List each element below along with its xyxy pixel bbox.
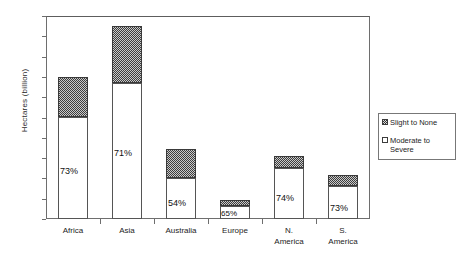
y-axis-tick-mark [42, 97, 46, 98]
x-axis-tick-mark [154, 219, 155, 224]
y-axis-tick-mark [42, 16, 46, 17]
bar-stack[interactable]: 65% [220, 200, 250, 219]
bar-segment-slight-to-none[interactable] [220, 200, 250, 207]
bar-data-label: 74% [276, 193, 294, 203]
legend: Slight to None Moderate to Severe [378, 113, 456, 160]
x-axis-category-label: Asia [119, 226, 135, 237]
legend-item-label: Moderate to Severe [390, 136, 452, 154]
y-axis-title: Hectares (billion) [20, 31, 29, 171]
white-swatch-icon [382, 137, 388, 143]
bar-segment-slight-to-none[interactable] [328, 175, 358, 186]
y-axis-tick-mark [42, 138, 46, 139]
y-axis-tick-mark [42, 77, 46, 78]
legend-item-moderate-to-severe[interactable]: Moderate to Severe [382, 136, 452, 154]
y-axis-tick-mark [42, 57, 46, 58]
x-axis-tick-mark [100, 219, 101, 224]
bar-segment-moderate-to-severe[interactable]: 71% [112, 83, 142, 219]
y-axis-tick-mark [42, 178, 46, 179]
bar-segment-moderate-to-severe[interactable]: 65% [220, 206, 250, 219]
x-axis-tick-mark [316, 219, 317, 224]
x-axis-category-label: Africa [63, 226, 83, 237]
bar-data-label: 71% [114, 148, 132, 158]
plot-area [46, 16, 370, 219]
y-axis-tick-mark [42, 219, 46, 220]
bar-stack[interactable]: 73% [58, 77, 88, 219]
x-axis-tick-mark [208, 219, 209, 224]
y-axis-tick-mark [42, 199, 46, 200]
x-axis-category-label: N. America [274, 226, 303, 247]
bar-segment-slight-to-none[interactable] [112, 26, 142, 83]
bar-stack[interactable]: 73% [328, 175, 358, 219]
bar-segment-moderate-to-severe[interactable]: 73% [328, 186, 358, 219]
bar-segment-slight-to-none[interactable] [166, 149, 196, 178]
bar-data-label: 54% [168, 198, 186, 208]
bar-data-label: 65% [221, 209, 237, 218]
y-axis-tick-mark [42, 36, 46, 37]
bar-segment-slight-to-none[interactable] [274, 156, 304, 168]
legend-item-slight-to-none[interactable]: Slight to None [382, 118, 452, 127]
bar-segment-moderate-to-severe[interactable]: 73% [58, 117, 88, 219]
legend-item-label: Slight to None [390, 118, 437, 127]
chart-container: Hectares (billion) 00.20.40.60.811.21.41… [0, 0, 464, 263]
bar-stack[interactable]: 71% [112, 26, 142, 219]
bar-data-label: 73% [330, 203, 348, 213]
y-axis-tick-mark [42, 158, 46, 159]
stipple-gray-swatch-icon [382, 119, 388, 125]
x-axis-tick-mark [262, 219, 263, 224]
bar-segment-moderate-to-severe[interactable]: 74% [274, 168, 304, 219]
x-axis-category-label: Europe [222, 226, 248, 237]
x-axis-category-label: Australia [165, 226, 196, 237]
bar-segment-slight-to-none[interactable] [58, 77, 88, 118]
x-axis-category-label: S. America [328, 226, 357, 247]
bar-stack[interactable]: 54% [166, 149, 196, 219]
y-axis-tick-mark [42, 118, 46, 119]
bar-stack[interactable]: 74% [274, 156, 304, 219]
bar-segment-moderate-to-severe[interactable]: 54% [166, 178, 196, 219]
bar-data-label: 73% [60, 166, 78, 176]
